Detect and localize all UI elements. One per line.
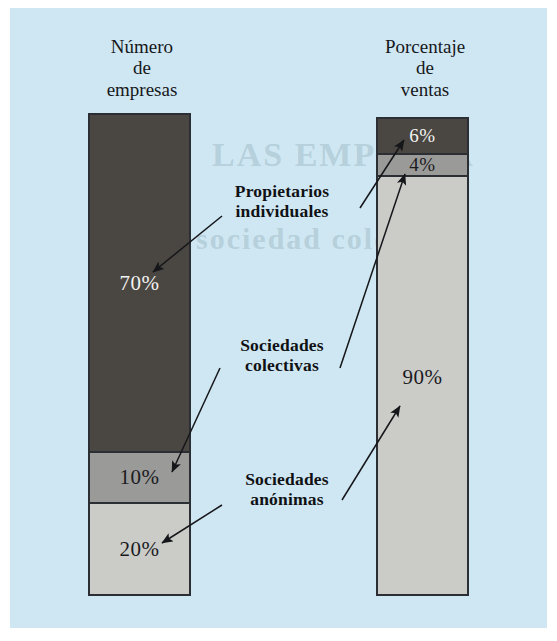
stacked-bar-numero-de-empresas: 70% 10% 20% (88, 113, 191, 596)
bar-segment-left-propietarios: 70% (90, 115, 189, 451)
figure-canvas: LAS EMPRESA sociedad colectiva Número de… (0, 0, 557, 641)
callout-sociedades-colectivas: Sociedades colectivas (208, 336, 356, 376)
callout-propietarios-individuales: Propietarios individuales (206, 182, 358, 222)
bar-segment-label: 6% (409, 125, 435, 147)
bar-segment-left-colectivas: 10% (90, 451, 189, 502)
bar-segment-right-anonimas: 90% (378, 175, 467, 594)
bar-segment-label: 70% (120, 271, 160, 296)
right-column-title: Porcentaje de ventas (360, 36, 490, 100)
bar-segment-right-propietarios: 6% (378, 119, 467, 153)
callout-sociedades-anonimas: Sociedades anónimas (212, 470, 362, 510)
stacked-bar-porcentaje-de-ventas: 6% 4% 90% (376, 117, 469, 596)
bar-segment-label: 90% (403, 365, 443, 390)
bar-segment-label: 20% (120, 537, 160, 562)
bar-segment-left-anonimas: 20% (90, 502, 189, 594)
bar-segment-label: 4% (409, 154, 435, 176)
bar-segment-label: 10% (120, 465, 160, 490)
bar-segment-right-colectivas: 4% (378, 153, 467, 175)
left-column-title: Número de empresas (72, 36, 212, 100)
